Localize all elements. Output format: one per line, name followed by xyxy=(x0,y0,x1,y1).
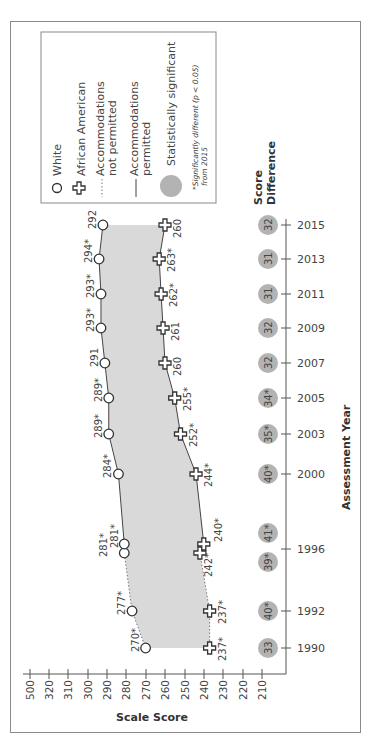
african-american-value-label: 244* xyxy=(203,463,214,487)
score-tick-label: 230 xyxy=(217,680,229,700)
scale-score-label: Scale Score xyxy=(116,711,188,724)
white-circle-marker-icon xyxy=(98,220,108,230)
african-american-value-label: 252* xyxy=(188,423,199,447)
score-tick-label: 290 xyxy=(101,680,113,700)
african-american-value-label: 263* xyxy=(166,248,177,272)
score-difference-title-line2: Difference xyxy=(265,141,278,205)
score-tick-label: 270 xyxy=(140,680,152,700)
legend: White African American Accommodations no… xyxy=(41,32,216,203)
score-tick-label: 260 xyxy=(159,680,171,700)
african-american-value-label: 261 xyxy=(170,322,181,341)
african-american-value-label: 240* xyxy=(213,518,224,542)
year-tick-label: 2005 xyxy=(297,392,325,405)
white-circle-marker-icon xyxy=(127,606,137,616)
white-circle-marker-icon xyxy=(100,358,110,368)
african-american-value-label: 260 xyxy=(172,219,183,238)
white-circle-marker-icon xyxy=(96,289,106,299)
white-circle-marker-icon xyxy=(94,254,104,264)
white-value-label: 281* xyxy=(98,533,109,557)
african-american-value-label: 260 xyxy=(172,357,183,376)
legend-african-american: African American xyxy=(75,82,88,176)
year-tick-label: 1990 xyxy=(297,642,325,655)
assessment-year-label: Assessment Year xyxy=(340,404,353,510)
legend-significant: Statistically significant xyxy=(165,41,178,166)
year-tick-label: 2007 xyxy=(297,357,325,370)
score-difference-value: 34* xyxy=(263,389,274,407)
white-circle-marker-icon xyxy=(119,548,129,558)
year-tick-label: 2003 xyxy=(297,428,325,441)
african-american-value-label: 242* xyxy=(203,553,214,577)
white-value-label: 293* xyxy=(85,274,96,298)
white-value-label: 289* xyxy=(93,378,104,402)
white-circle-marker-icon xyxy=(104,393,114,403)
score-tick-label: 310 xyxy=(62,680,74,700)
score-tick-label: 250 xyxy=(179,680,191,700)
score-tick-label: 220 xyxy=(237,680,249,700)
score-tick-label: 500 xyxy=(24,680,36,700)
score-difference-value: 39* xyxy=(263,553,274,571)
score-difference-value: 32 xyxy=(263,356,274,369)
score-difference-value: 32 xyxy=(263,218,274,231)
score-difference-value: 33 xyxy=(263,641,274,654)
white-circle-marker-icon xyxy=(114,469,124,479)
score-tick-label: 320 xyxy=(43,680,55,700)
african-american-value-label: 237* xyxy=(217,637,228,661)
score-tick-label: 300 xyxy=(82,680,94,700)
african-american-value-label: 255* xyxy=(182,387,193,411)
year-tick-label: 2011 xyxy=(297,288,325,301)
white-value-label: 294* xyxy=(83,239,94,263)
white-value-label: 277* xyxy=(116,591,127,615)
scale-score-axis: 500320310300290280270260250240230220210 xyxy=(23,669,286,700)
score-difference-value: 31 xyxy=(263,287,274,300)
score-tick-label: 240 xyxy=(198,680,210,700)
african-american-value-label: 262* xyxy=(168,283,179,307)
year-tick-label: 2000 xyxy=(297,468,325,481)
score-tick-label: 210 xyxy=(256,680,268,700)
white-circle-marker-icon xyxy=(104,429,114,439)
assessment-year-axis: 2015201320112009200720052003200019961992… xyxy=(281,219,325,674)
year-tick-label: 1992 xyxy=(297,605,325,618)
white-value-label: 291 xyxy=(89,348,100,367)
white-value-label: 289* xyxy=(93,414,104,438)
white-marker-icon xyxy=(53,184,62,193)
score-difference-value: 41* xyxy=(263,524,274,542)
score-tick-label: 280 xyxy=(120,680,132,700)
white-value-label: 284* xyxy=(102,454,113,478)
african-american-value-label: 237* xyxy=(217,600,228,624)
legend-not-permitted-line2: not permitted xyxy=(106,100,119,176)
year-tick-label: 1996 xyxy=(297,543,325,556)
score-difference-value: 40* xyxy=(263,465,274,483)
score-difference-value: 32 xyxy=(263,321,274,334)
white-value-label: 293* xyxy=(85,308,96,332)
year-tick-label: 2015 xyxy=(297,219,325,232)
white-value-label: 270* xyxy=(130,628,141,652)
year-tick-label: 2009 xyxy=(297,322,325,335)
score-difference-badges: 323131323234*35*40*41*39*40*33 xyxy=(258,215,278,658)
score-difference-value: 35* xyxy=(263,425,274,443)
rotated-line-chart: White African American Accommodations no… xyxy=(0,0,371,740)
score-difference-value: 40* xyxy=(263,602,274,620)
legend-white: White xyxy=(51,144,64,176)
year-tick-label: 2013 xyxy=(297,253,325,266)
score-difference-title-line1: Score xyxy=(252,170,265,205)
white-circle-marker-icon xyxy=(141,643,151,653)
white-value-label: 281* xyxy=(109,524,120,548)
score-difference-value: 31 xyxy=(263,252,274,265)
legend-note-line1: *Significantly different (p < 0.05) xyxy=(191,65,200,190)
significant-circle-icon xyxy=(160,175,182,197)
white-value-label: 292 xyxy=(87,210,98,229)
white-circle-marker-icon xyxy=(119,539,129,549)
legend-note-line2: from 2015 xyxy=(200,147,209,186)
white-circle-marker-icon xyxy=(96,323,106,333)
legend-permitted-line2: permitted xyxy=(140,122,153,176)
